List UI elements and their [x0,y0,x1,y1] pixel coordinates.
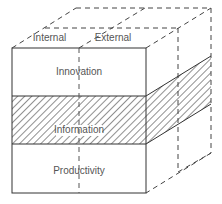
column-label-internal: Internal [22,32,77,43]
column-label-external: External [83,32,143,43]
row-label-innovation: Innovation [12,66,146,77]
row-label-information: Information [12,124,146,135]
row-label-productivity: Productivity [12,165,146,176]
